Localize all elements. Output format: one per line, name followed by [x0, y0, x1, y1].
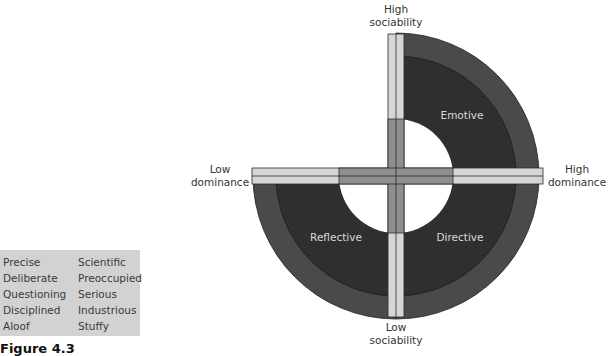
- axis-label-top-2: sociability: [370, 16, 423, 28]
- axis-label-left-2: dominance: [191, 176, 249, 188]
- quadrant-label-directive: Directive: [436, 231, 483, 243]
- axis-label-left: Low: [210, 163, 231, 175]
- axis-label-right: High: [565, 163, 589, 175]
- axis-label-bottom: Low: [386, 321, 407, 333]
- quadrant-label-reflective: Reflective: [310, 231, 362, 243]
- axis-label-right-2: dominance: [548, 176, 606, 188]
- quadrant-label-emotive: Emotive: [441, 109, 484, 121]
- axis-label-bottom-2: sociability: [370, 334, 423, 346]
- axis-label-top: High: [384, 3, 408, 15]
